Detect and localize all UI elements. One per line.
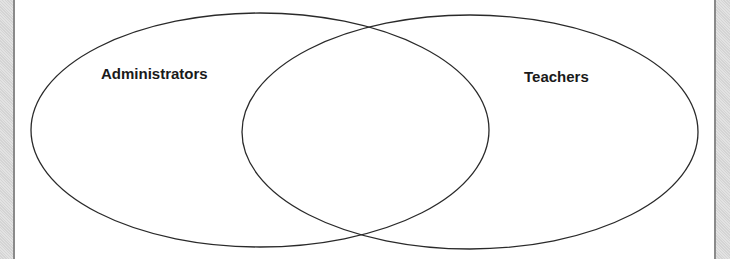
teachers-label: Teachers (524, 69, 589, 84)
administrators-ellipse (31, 13, 489, 247)
teachers-ellipse (242, 15, 698, 249)
venn-diagram (0, 0, 730, 259)
administrators-label: Administrators (101, 66, 208, 81)
